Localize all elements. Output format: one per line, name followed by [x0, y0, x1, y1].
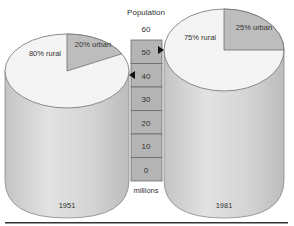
population-scale [131, 40, 162, 181]
bottom-rule [5, 222, 288, 224]
scale-tick-50: 50 [142, 48, 151, 57]
scale-tick-0: 0 [144, 166, 149, 175]
scale-tick-40: 40 [142, 72, 151, 81]
rural-label-1981: 75% rural [184, 33, 216, 42]
scale-tick-10: 10 [142, 142, 151, 151]
scale-tick-20: 20 [142, 119, 151, 128]
urban-label-1951: 20% urban [75, 40, 111, 49]
year-label-1981: 1981 [216, 201, 233, 210]
scale-top-label: 60 [142, 25, 151, 34]
year-label-1951: 1951 [59, 201, 76, 210]
scale-title: Population [127, 8, 165, 17]
cylinder-1951 [5, 34, 129, 218]
scale-tick-30: 30 [142, 95, 151, 104]
cylinder-1981 [164, 9, 284, 218]
population-diagram: Population 60 50 40 30 20 10 0 millions … [0, 0, 294, 226]
scale-unit: millions [133, 186, 158, 195]
rural-label-1951: 80% rural [29, 49, 61, 58]
urban-label-1981: 25% urban [236, 23, 272, 32]
